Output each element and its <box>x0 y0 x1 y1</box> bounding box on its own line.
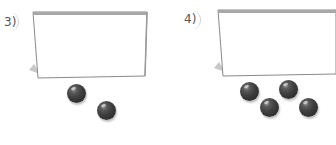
empty-answer-box <box>211 6 336 80</box>
ball <box>299 98 318 117</box>
ball <box>240 82 259 101</box>
ball <box>67 84 86 103</box>
label-arc-decoration <box>4 13 19 31</box>
problem-4: 4) <box>166 0 332 145</box>
empty-answer-box <box>26 8 152 82</box>
label-arc-decoration <box>186 11 201 29</box>
ball <box>97 101 116 120</box>
ball <box>279 80 298 99</box>
ball <box>260 98 279 117</box>
problem-3: 3) <box>0 0 166 145</box>
